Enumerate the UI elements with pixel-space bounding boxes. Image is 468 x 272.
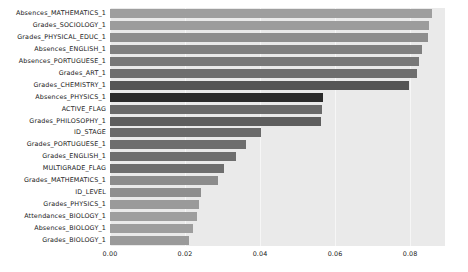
bar (110, 188, 201, 197)
x-tick-label: 0.04 (253, 250, 268, 258)
bar-fill (110, 176, 218, 185)
y-axis-label: Attendances_BIOLOGY_1 (0, 212, 106, 221)
bar-fill (110, 105, 322, 114)
bar (110, 212, 197, 221)
bar-fill (110, 45, 422, 54)
gridline-x-2 (260, 8, 261, 246)
x-tick-label: 0.02 (178, 250, 193, 258)
bar (110, 81, 409, 90)
bar (110, 236, 189, 245)
bar-fill (110, 236, 189, 245)
bar-fill (110, 152, 236, 161)
x-tick-label: 0.00 (103, 250, 118, 258)
gridline-x-3 (335, 8, 336, 246)
bar-fill (110, 81, 409, 90)
bar (110, 128, 261, 137)
y-axis-label: Grades_CHEMISTRY_1 (0, 81, 106, 90)
plot-area (110, 8, 445, 246)
x-axis: 0.000.020.040.060.08 (110, 246, 445, 266)
bar (110, 140, 246, 149)
bar-fill (110, 212, 197, 221)
y-axis-label: Absences_BIOLOGY_1 (0, 224, 106, 233)
bar-fill (110, 93, 323, 102)
y-axis-label: Grades_PHILOSOPHY_1 (0, 117, 106, 126)
bar-fill (110, 33, 428, 42)
y-axis-label: Grades_MATHEMATICS_1 (0, 176, 106, 185)
bar-fill (110, 140, 246, 149)
y-axis-label: Grades_PHYSICS_1 (0, 200, 106, 209)
gridline-x-4 (410, 8, 411, 246)
y-axis-label: ACTIVE_FLAG (0, 105, 106, 114)
y-axis-label: Grades_PORTUGUESE_1 (0, 140, 106, 149)
feature-importance-bar-chart: Absences_MATHEMATICS_1Grades_SOCIOLOGY_1… (0, 0, 468, 272)
y-axis-label: Grades_PHYSICAL_EDUC_1 (0, 33, 106, 42)
bar-fill (110, 69, 417, 78)
gridline-x-1 (185, 8, 186, 246)
y-axis-label: ID_STAGE (0, 128, 106, 137)
y-axis-label: MULTIGRADE_FLAG (0, 164, 106, 173)
y-axis-label: Absences_ENGLISH_1 (0, 45, 106, 54)
bar-fill (110, 200, 199, 209)
bar-fill (110, 224, 193, 233)
bar-fill (110, 164, 224, 173)
bar (110, 152, 236, 161)
bar (110, 93, 323, 102)
y-axis-label: ID_LEVEL (0, 188, 106, 197)
y-axis-label: Grades_ART_1 (0, 69, 106, 78)
x-tick-label: 0.06 (328, 250, 343, 258)
bar-fill (110, 128, 261, 137)
bar (110, 200, 199, 209)
y-axis-label: Absences_PHYSICS_1 (0, 93, 106, 102)
bar-fill (110, 21, 429, 30)
bar (110, 9, 432, 18)
bar-fill (110, 188, 201, 197)
bar (110, 21, 429, 30)
bar (110, 164, 224, 173)
bar (110, 224, 193, 233)
bar (110, 69, 417, 78)
y-axis-label: Grades_BIOLOGY_1 (0, 236, 106, 245)
bar (110, 33, 428, 42)
x-tick-label: 0.08 (403, 250, 418, 258)
bar-fill (110, 9, 432, 18)
bar (110, 45, 422, 54)
y-axis-category-labels: Absences_MATHEMATICS_1Grades_SOCIOLOGY_1… (0, 8, 106, 246)
gridline-x-0 (110, 8, 111, 246)
bar (110, 57, 419, 66)
y-axis-label: Absences_MATHEMATICS_1 (0, 9, 106, 18)
y-axis-label: Grades_ENGLISH_1 (0, 152, 106, 161)
bar (110, 117, 321, 126)
bar (110, 105, 322, 114)
y-axis-label: Absences_PORTUGUESE_1 (0, 57, 106, 66)
bar-fill (110, 117, 321, 126)
y-axis-label: Grades_SOCIOLOGY_1 (0, 21, 106, 30)
bar (110, 176, 218, 185)
bar-fill (110, 57, 419, 66)
